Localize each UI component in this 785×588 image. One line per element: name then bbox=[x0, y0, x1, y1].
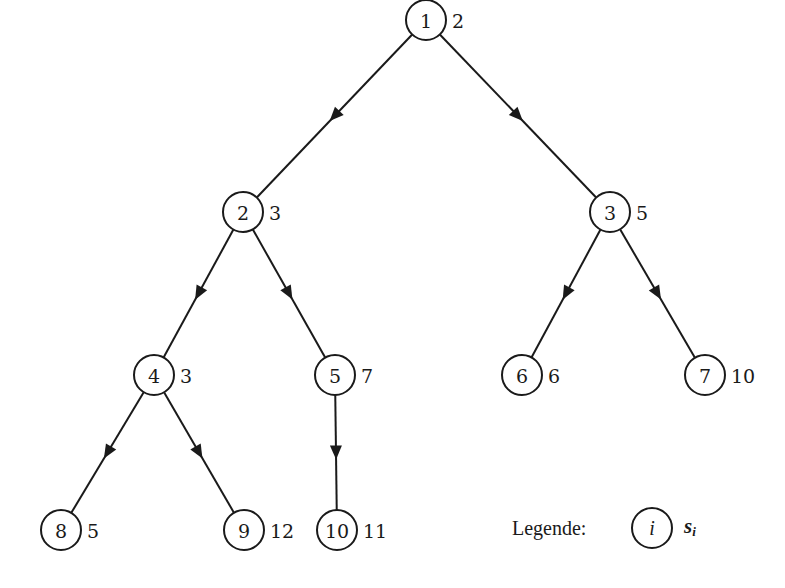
arrowhead-icon bbox=[649, 284, 661, 299]
node-weight: 3 bbox=[180, 365, 192, 387]
edge-2-4 bbox=[164, 230, 234, 358]
legend: Legende: i si bbox=[512, 508, 696, 548]
node-label: 1 bbox=[420, 10, 432, 32]
node-label: 2 bbox=[237, 202, 249, 224]
node-weight: 2 bbox=[452, 10, 464, 32]
tree-node-10: 1011 bbox=[317, 510, 387, 550]
node-label: 8 bbox=[55, 520, 67, 542]
node-weight: 5 bbox=[636, 202, 648, 224]
node-label: 3 bbox=[604, 202, 616, 224]
tree-node-1: 12 bbox=[406, 0, 464, 40]
tree-node-5: 57 bbox=[315, 355, 373, 395]
node-weight: 10 bbox=[731, 365, 755, 387]
node-label: 7 bbox=[699, 365, 711, 387]
arrowhead-icon bbox=[280, 284, 292, 299]
legend-node-symbol: i bbox=[649, 517, 655, 539]
nodes-layer: 122335435766710859121011 bbox=[41, 0, 755, 550]
node-label: 9 bbox=[238, 520, 250, 542]
node-label: 6 bbox=[516, 365, 528, 387]
edge-1-2 bbox=[257, 34, 412, 197]
node-label: 10 bbox=[325, 520, 349, 542]
edge-4-8 bbox=[71, 392, 143, 513]
node-label: 5 bbox=[329, 365, 341, 387]
tree-node-9: 912 bbox=[224, 510, 294, 550]
arrowhead-icon bbox=[190, 443, 202, 458]
node-weight: 7 bbox=[361, 365, 373, 387]
node-label: 4 bbox=[148, 365, 160, 387]
node-weight: 5 bbox=[87, 520, 99, 542]
node-weight: 11 bbox=[363, 520, 387, 542]
legend-weight-symbol: si bbox=[683, 514, 696, 539]
tree-node-8: 85 bbox=[41, 510, 99, 550]
node-weight: 6 bbox=[548, 365, 560, 387]
node-weight: 12 bbox=[270, 520, 294, 542]
tree-diagram: 122335435766710859121011 Legende: i si bbox=[0, 0, 785, 588]
tree-node-2: 23 bbox=[223, 192, 281, 232]
tree-node-3: 35 bbox=[590, 192, 648, 232]
tree-node-4: 43 bbox=[134, 355, 192, 395]
tree-node-7: 710 bbox=[685, 355, 755, 395]
arrowhead-icon bbox=[104, 443, 116, 458]
legend-title: Legende: bbox=[512, 517, 586, 540]
edges-layer bbox=[71, 34, 695, 512]
tree-node-6: 66 bbox=[502, 355, 560, 395]
edge-3-7 bbox=[620, 229, 695, 357]
edge-3-6 bbox=[532, 230, 601, 358]
edge-2-5 bbox=[253, 229, 325, 357]
edge-1-3 bbox=[440, 34, 596, 197]
edge-4-9 bbox=[164, 392, 234, 512]
node-weight: 3 bbox=[269, 202, 281, 224]
edge-5-10 bbox=[330, 395, 342, 510]
arrowhead-icon bbox=[330, 445, 342, 459]
